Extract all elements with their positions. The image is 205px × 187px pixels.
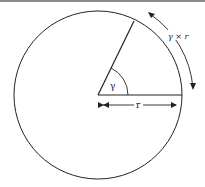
arrowhead-left-icon bbox=[103, 102, 109, 108]
radius-label: r bbox=[136, 100, 141, 110]
arc-length-arrow bbox=[150, 14, 193, 88]
arc-length-label: γ × r bbox=[168, 32, 190, 41]
arrowhead-bottom-icon bbox=[190, 83, 196, 90]
arc-length-diagram: γ r γ × r bbox=[0, 0, 205, 187]
angle-label: γ bbox=[110, 81, 115, 91]
radius-line-angled bbox=[98, 21, 134, 95]
